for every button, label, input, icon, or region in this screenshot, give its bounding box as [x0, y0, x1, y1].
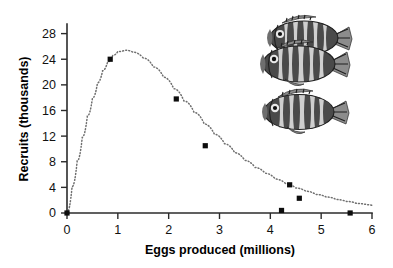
- data-point-marker: [174, 96, 179, 101]
- x-tick-label: 1: [114, 223, 121, 237]
- figure-container: 0481216202428 0123456 Eggs produced (mil…: [0, 0, 393, 268]
- data-point-marker: [108, 57, 113, 62]
- y-tick-label: 0: [49, 206, 56, 220]
- y-tick-label: 16: [42, 104, 56, 118]
- y-axis-title: Recruits (thousands): [17, 56, 31, 181]
- sunfish-middle: [260, 40, 350, 86]
- sunfish-eye: [270, 55, 279, 64]
- data-point-marker: [203, 143, 208, 148]
- y-tick-label: 8: [49, 155, 56, 169]
- sunfish-eye: [276, 30, 284, 38]
- y-axis-ticks: 0481216202428: [42, 27, 67, 220]
- sunfish-eye: [271, 104, 279, 112]
- x-axis-ticks: 0123456: [64, 213, 376, 237]
- x-axis-title: Eggs produced (millions): [145, 243, 295, 257]
- y-tick-label: 28: [42, 27, 56, 41]
- x-tick-label: 0: [64, 223, 71, 237]
- three-sunfish-illustration: [260, 15, 352, 134]
- x-tick-label: 5: [318, 223, 325, 237]
- y-tick-label: 4: [49, 181, 56, 195]
- sunfish-lower: [262, 89, 349, 134]
- x-tick-label: 3: [216, 223, 223, 237]
- data-point-marker: [297, 196, 302, 201]
- data-point-marker: [287, 182, 292, 187]
- y-tick-label: 24: [42, 53, 56, 67]
- x-tick-label: 6: [369, 223, 376, 237]
- stock-recruitment-chart: 0481216202428 0123456 Eggs produced (mil…: [0, 0, 393, 268]
- y-tick-label: 12: [42, 130, 56, 144]
- x-tick-label: 2: [165, 223, 172, 237]
- y-tick-label: 20: [42, 78, 56, 92]
- data-point-marker: [64, 210, 69, 215]
- x-tick-label: 4: [267, 223, 274, 237]
- data-point-marker: [279, 208, 284, 213]
- data-point-marker: [348, 210, 353, 215]
